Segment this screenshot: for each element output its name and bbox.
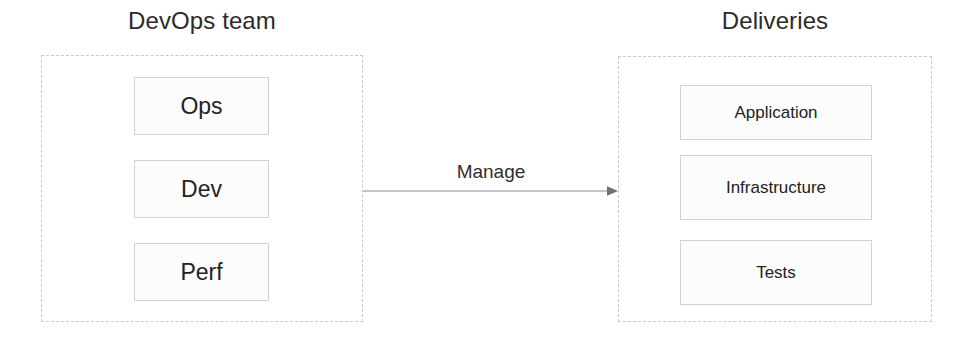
item-box-tests[interactable]: Tests (680, 240, 872, 305)
item-label-tests: Tests (756, 263, 796, 283)
item-label-ops: Ops (180, 93, 222, 120)
item-box-dev[interactable]: Dev (134, 160, 269, 218)
group-title-deliveries: Deliveries (618, 7, 932, 35)
group-title-devops-team: DevOps team (41, 7, 363, 35)
devops-deliveries-diagram: DevOps team Ops Dev Perf Manage Deliveri… (0, 0, 971, 343)
arrow-right-icon (607, 186, 618, 196)
item-label-infrastructure: Infrastructure (726, 178, 826, 198)
item-label-dev: Dev (181, 176, 222, 203)
item-box-application[interactable]: Application (680, 85, 872, 140)
item-box-perf[interactable]: Perf (134, 243, 269, 301)
connector-label-manage: Manage (400, 161, 582, 183)
item-label-perf: Perf (180, 259, 222, 286)
item-box-infrastructure[interactable]: Infrastructure (680, 155, 872, 220)
item-label-application: Application (734, 103, 817, 123)
item-box-ops[interactable]: Ops (134, 77, 269, 135)
